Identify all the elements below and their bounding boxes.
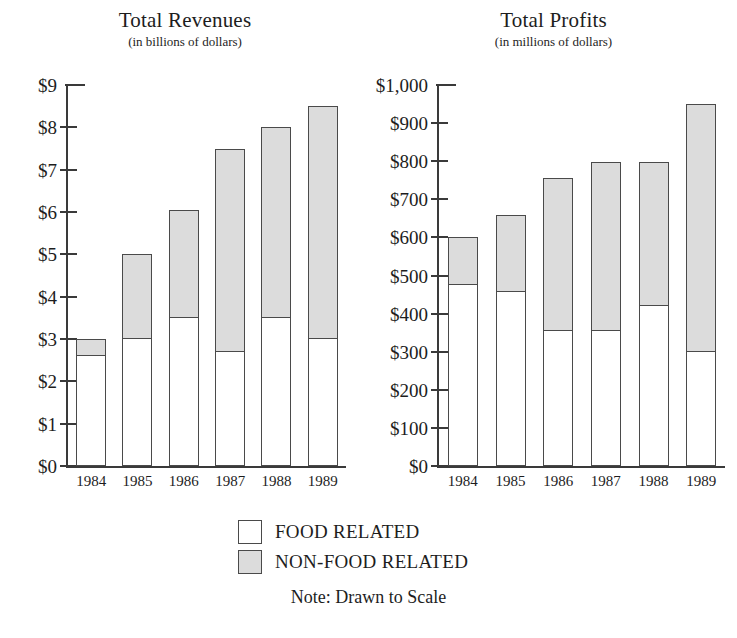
chart-subtitle-revenues: (in billions of dollars) (0, 34, 370, 50)
stacked-bar[interactable] (76, 339, 106, 466)
bar-slot (114, 85, 160, 466)
x-tick-label: 1988 (253, 472, 299, 490)
x-tick-label: 1986 (534, 472, 582, 490)
y-tick-label: $100 (390, 418, 428, 437)
bar-slot (300, 85, 346, 466)
bar-segment-food-related[interactable] (686, 352, 716, 466)
bar-segment-food-related[interactable] (639, 306, 669, 466)
chart-panel-profits: Total Profits (in millions of dollars) (370, 0, 737, 50)
chart-title-revenues: Total Revenues (0, 8, 370, 33)
legend-items: FOOD RELATEDNON-FOOD RELATED (0, 520, 737, 574)
plot-area-revenues: $9$8$7$6$5$4$3$2$1$0 1984198519861987198… (66, 85, 346, 466)
stacked-bar[interactable] (591, 162, 621, 466)
bar-segment-food-related[interactable] (448, 285, 478, 466)
bar-segment-non-food-related[interactable] (496, 215, 526, 292)
bar-slot (630, 85, 678, 466)
y-tick-label: $6 (38, 203, 57, 222)
x-tick-label: 1989 (300, 472, 346, 490)
bar-group-revenues (68, 85, 346, 466)
stacked-bar[interactable] (122, 254, 152, 466)
x-tick-label: 1986 (161, 472, 207, 490)
legend-item[interactable]: NON-FOOD RELATED (0, 550, 737, 574)
stacked-bar[interactable] (686, 104, 716, 466)
x-tick-label: 1984 (439, 472, 487, 490)
legend-swatch-food (238, 520, 262, 544)
bar-slot (439, 85, 487, 466)
bar-slot (487, 85, 535, 466)
stacked-bar[interactable] (261, 127, 291, 466)
bar-segment-non-food-related[interactable] (448, 237, 478, 285)
bar-segment-food-related[interactable] (591, 331, 621, 466)
bar-segment-food-related[interactable] (308, 339, 338, 466)
y-tick-label: $300 (390, 342, 428, 361)
y-tick-label: $1 (38, 414, 57, 433)
chart-legend: FOOD RELATEDNON-FOOD RELATED Note: Drawn… (0, 520, 737, 608)
x-tick-label: 1985 (114, 472, 160, 490)
stacked-bar[interactable] (215, 149, 245, 466)
bar-segment-non-food-related[interactable] (122, 254, 152, 339)
y-tick-label: $5 (38, 245, 57, 264)
plot-area-profits: $1,000$900$800$700$600$500$400$300$200$1… (437, 85, 725, 466)
bar-segment-food-related[interactable] (169, 318, 199, 466)
bar-segment-food-related[interactable] (76, 356, 106, 466)
legend-label: FOOD RELATED (275, 521, 420, 543)
x-tick-label: 1985 (487, 472, 535, 490)
bar-segment-non-food-related[interactable] (686, 104, 716, 352)
y-tick-label: $2 (38, 372, 57, 391)
bar-segment-non-food-related[interactable] (76, 339, 106, 356)
y-tick-label: $600 (390, 228, 428, 247)
y-tick-label: $700 (390, 190, 428, 209)
bar-segment-non-food-related[interactable] (639, 162, 669, 306)
bar-segment-non-food-related[interactable] (308, 106, 338, 339)
x-tick-label: 1984 (68, 472, 114, 490)
x-axis-labels-profits: 198419851986198719881989 (439, 472, 725, 490)
bar-slot (534, 85, 582, 466)
bar-segment-non-food-related[interactable] (169, 210, 199, 318)
y-tick-label: $800 (390, 152, 428, 171)
y-tick-label: $200 (390, 380, 428, 399)
bar-segment-non-food-related[interactable] (215, 149, 245, 352)
stacked-bar[interactable] (543, 178, 573, 466)
bar-segment-food-related[interactable] (215, 352, 245, 466)
y-tick-label: $900 (390, 114, 428, 133)
x-tick-label: 1989 (677, 472, 725, 490)
bar-segment-non-food-related[interactable] (543, 178, 573, 330)
stacked-bar[interactable] (639, 162, 669, 466)
y-tick-label: $0 (409, 457, 428, 476)
chart-subtitle-profits: (in millions of dollars) (370, 34, 737, 50)
legend-item[interactable]: FOOD RELATED (0, 520, 737, 544)
y-tick-label: $7 (38, 160, 57, 179)
bar-segment-food-related[interactable] (496, 292, 526, 466)
bar-segment-non-food-related[interactable] (261, 127, 291, 318)
stacked-bar[interactable] (448, 237, 478, 466)
bar-segment-food-related[interactable] (261, 318, 291, 466)
bar-group-profits (439, 85, 725, 466)
bar-slot (68, 85, 114, 466)
stacked-bar[interactable] (169, 210, 199, 466)
chart-panel-revenues: Total Revenues (in billions of dollars) (0, 0, 370, 50)
y-tick-label: $1,000 (376, 76, 428, 95)
bar-slot (677, 85, 725, 466)
x-axis-line-revenues (66, 466, 346, 468)
y-tick-label: $400 (390, 304, 428, 323)
bar-slot (207, 85, 253, 466)
legend-label: NON-FOOD RELATED (275, 551, 468, 573)
chart-title-profits: Total Profits (370, 8, 737, 33)
bar-segment-non-food-related[interactable] (591, 162, 621, 331)
y-tick-label: $9 (38, 76, 57, 95)
y-tick-label: $8 (38, 118, 57, 137)
y-tick-label: $0 (38, 457, 57, 476)
x-tick-label: 1988 (630, 472, 678, 490)
stacked-bar[interactable] (496, 215, 526, 466)
bar-slot (161, 85, 207, 466)
stacked-bar[interactable] (308, 106, 338, 466)
x-tick-label: 1987 (207, 472, 253, 490)
y-tick-label: $500 (390, 266, 428, 285)
y-tick-label: $4 (38, 287, 57, 306)
bar-segment-food-related[interactable] (543, 331, 573, 466)
chart-note: Note: Drawn to Scale (0, 586, 737, 608)
bar-slot (582, 85, 630, 466)
y-tick-label: $3 (38, 330, 57, 349)
bar-segment-food-related[interactable] (122, 339, 152, 466)
x-axis-line-profits (437, 466, 725, 468)
